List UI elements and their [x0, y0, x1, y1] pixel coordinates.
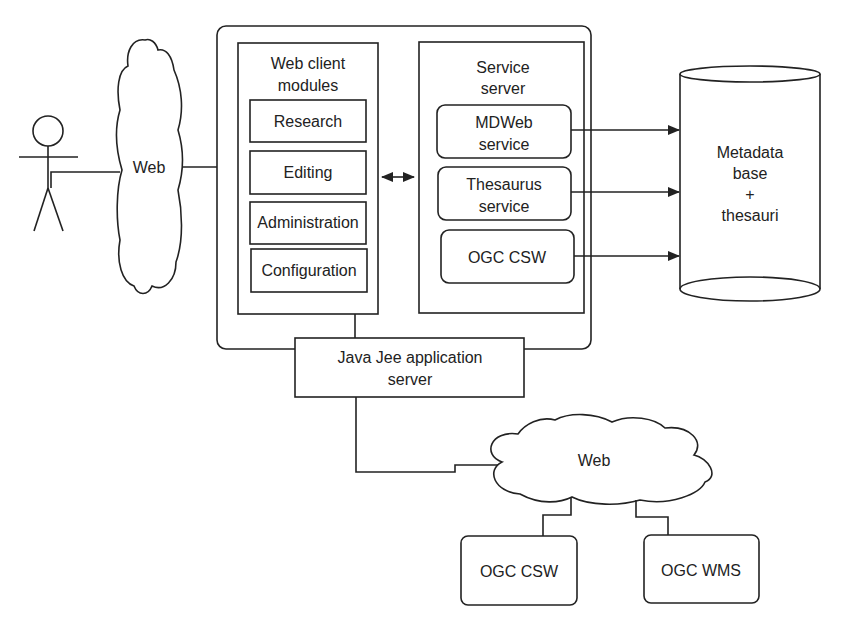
database-label-line1: Metadata: [717, 144, 784, 161]
metadata-database-icon: Metadata base + thesauri: [680, 66, 820, 301]
svg-text:Research: Research: [274, 113, 342, 130]
svg-text:Java Jee application: Java Jee application: [338, 349, 483, 366]
web-cloud-left: Web: [116, 39, 182, 293]
web-client-title-line1: Web client: [271, 55, 346, 72]
svg-text:service: service: [479, 136, 530, 153]
svg-text:MDWeb: MDWeb: [475, 114, 533, 131]
actor-web-link: [51, 172, 120, 188]
web-cloud-bottom-label: Web: [578, 452, 611, 469]
svg-text:Thesaurus: Thesaurus: [466, 176, 542, 193]
external-ogc-csw[interactable]: OGC CSW: [461, 536, 577, 605]
service-server-title-line2: server: [481, 80, 526, 97]
database-label-line3: +: [745, 186, 754, 203]
architecture-diagram: Web Web client modules Research Editing …: [0, 0, 842, 628]
service-thesaurus[interactable]: Thesaurus service: [438, 167, 571, 220]
svg-text:OGC CSW: OGC CSW: [480, 563, 559, 580]
service-mdweb[interactable]: MDWeb service: [437, 105, 571, 158]
user-actor-icon: [19, 116, 78, 231]
web-cloud-left-label: Web: [133, 159, 166, 176]
database-label-line2: base: [733, 165, 768, 182]
service-ogc-csw[interactable]: OGC CSW: [441, 230, 574, 283]
web-to-csw-link: [543, 498, 571, 536]
database-label-line4: thesauri: [722, 207, 779, 224]
module-editing[interactable]: Editing: [250, 151, 366, 194]
module-configuration[interactable]: Configuration: [251, 249, 367, 292]
svg-text:server: server: [388, 371, 433, 388]
svg-text:Administration: Administration: [257, 214, 358, 231]
module-administration[interactable]: Administration: [250, 202, 366, 244]
web-client-title-line2: modules: [278, 77, 338, 94]
module-research[interactable]: Research: [250, 100, 366, 142]
svg-text:OGC WMS: OGC WMS: [661, 562, 741, 579]
service-server-title-line1: Service: [476, 59, 529, 76]
svg-text:service: service: [479, 198, 530, 215]
svg-text:Configuration: Configuration: [261, 262, 356, 279]
external-ogc-wms[interactable]: OGC WMS: [644, 535, 759, 603]
appserver-to-web-link: [356, 397, 509, 472]
svg-text:Editing: Editing: [284, 164, 333, 181]
web-to-wms-link: [636, 500, 668, 536]
svg-text:OGC CSW: OGC CSW: [468, 249, 547, 266]
web-cloud-bottom: Web: [491, 415, 712, 505]
java-jee-app-server[interactable]: Java Jee application server: [295, 338, 524, 397]
